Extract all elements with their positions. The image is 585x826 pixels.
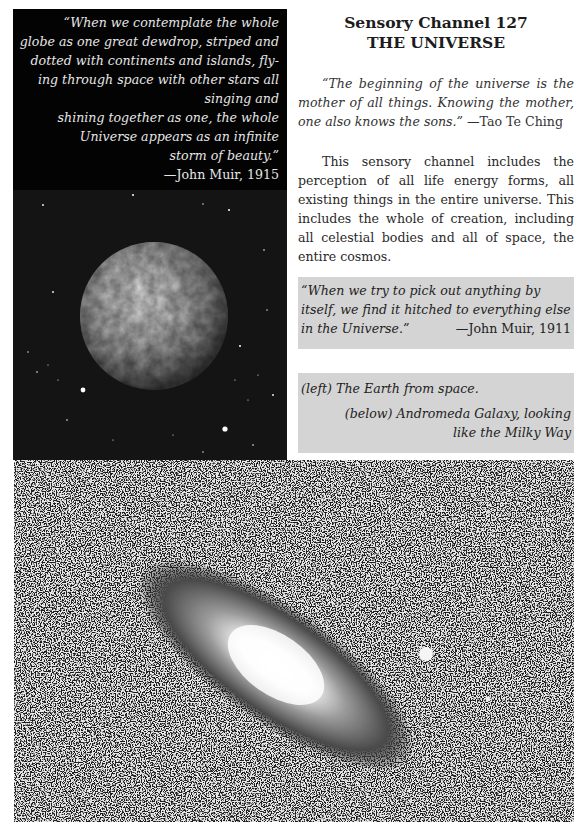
body-paragraph: This sensory channel includes the percep… (298, 152, 574, 266)
tao-te-ching-epigraph: “The beginning of the universe is the mo… (298, 74, 574, 131)
caption-earth: (left) The Earth from space. (301, 377, 571, 398)
quote-line: Universe appears as an infinite (17, 127, 279, 146)
muir-1915-quote: “When we contemplate the whole globe as … (17, 13, 279, 184)
page-title: Sensory Channel 127 THE UNIVERSE (298, 13, 574, 53)
title-universe: THE UNIVERSE (298, 33, 574, 53)
quote-line: globe as one great dewdrop, striped and (17, 32, 279, 51)
quote-line: dotted with continents and islands, fly- (17, 51, 279, 70)
right-column: Sensory Channel 127 THE UNIVERSE “The be… (298, 0, 574, 266)
epigraph-attribution: —Tao Te Ching (467, 114, 563, 129)
quote-attribution: —John Muir, 1915 (17, 165, 279, 184)
quote-line: shining together as one, the whole (17, 108, 279, 127)
muir-1911-quote-box: “When we try to pick out anything by its… (298, 277, 574, 349)
earth-from-space-image (13, 190, 287, 460)
left-panel: “When we contemplate the whole globe as … (13, 9, 287, 460)
andromeda-galaxy-image (14, 460, 574, 822)
caption-andromeda: (below) Andromeda Galaxy, looking like t… (301, 404, 571, 442)
quote-line: “When we contemplate the whole (17, 13, 279, 32)
muir-1915-quote-block: “When we contemplate the whole globe as … (13, 9, 287, 190)
quote-line: storm of beauty.” (17, 146, 279, 165)
quote-line: ing through space with other stars all (17, 70, 279, 89)
quote-line: singing and (17, 89, 279, 108)
muir-1911-attribution: —John Muir, 1911 (456, 319, 571, 338)
title-channel-number: Sensory Channel 127 (298, 13, 574, 33)
caption-box: (left) The Earth from space. (below) And… (298, 373, 574, 453)
